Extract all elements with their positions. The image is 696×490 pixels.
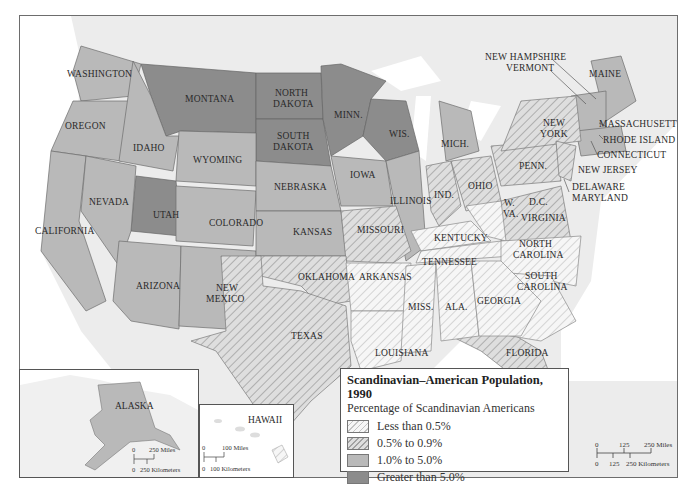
label-utah: UTAH	[153, 210, 179, 220]
legend-swatch-light-hatch	[347, 420, 369, 433]
label-new-york-2: YORK	[540, 129, 568, 139]
label-new-mexico: NEW	[216, 283, 238, 293]
main-scale-miles-mid: 125	[619, 441, 630, 449]
label-oklahoma: OKLAHOMA	[298, 272, 355, 282]
legend-label: 1.0% to 5.0%	[377, 453, 442, 468]
legend-label: Greater than 5.0%	[377, 470, 465, 485]
label-mississippi: MISS.	[408, 302, 434, 312]
label-tennessee: TENNESSEE	[422, 257, 477, 267]
label-west-virginia-2: VA.	[503, 209, 518, 219]
label-ohio: OHIO	[468, 181, 493, 191]
label-south-carolina: SOUTH	[525, 271, 558, 281]
main-scale-zero: 0	[595, 441, 599, 449]
label-oregon: OREGON	[65, 121, 106, 131]
label-texas: TEXAS	[291, 331, 323, 341]
legend-swatch-solid-dark	[347, 471, 369, 484]
main-scale-km-end: 250 Kilometers	[626, 460, 670, 468]
label-nevada: NEVADA	[89, 197, 129, 207]
label-michigan: MICH.	[441, 139, 469, 149]
label-georgia: GEORGIA	[477, 296, 521, 306]
label-south-carolina-2: CAROLINA	[517, 282, 568, 292]
label-nebraska: NEBRASKA	[274, 182, 327, 192]
label-massachusetts: MASSACHUSETTS	[599, 119, 678, 129]
label-north-carolina-2: CAROLINA	[513, 250, 564, 260]
legend-item-1-5: 1.0% to 5.0%	[347, 452, 562, 469]
legend-title: Scandinavian–American Population, 1990	[347, 373, 562, 401]
label-new-mexico-2: MEXICO	[206, 294, 245, 304]
hawaii-scale-zero: 0	[202, 444, 205, 451]
alaska-scale-zero: 0	[132, 446, 135, 453]
label-alabama: ALA.	[445, 302, 468, 312]
main-scale-miles-end: 250 Miles	[644, 441, 672, 449]
label-connecticut: CONNECTICUT	[597, 150, 666, 160]
label-new-jersey: NEW JERSEY	[578, 165, 638, 175]
label-wisconsin: WIS.	[389, 129, 410, 139]
label-arizona: ARIZONA	[136, 281, 180, 291]
label-north-dakota-2: DAKOTA	[273, 99, 314, 109]
label-louisiana: LOUISIANA	[375, 348, 429, 358]
label-virginia: VIRGINIA	[521, 213, 566, 223]
label-south-dakota-2: DAKOTA	[273, 142, 314, 152]
legend-item-gt-5: Greater than 5.0%	[347, 469, 562, 486]
alaska-inset: ALASKA 0 250 Miles 0 250 Kilometers	[19, 369, 199, 478]
legend-swatch-dark-hatch	[347, 437, 369, 450]
label-california: CALIFORNIA	[35, 226, 95, 236]
label-wyoming: WYOMING	[193, 155, 242, 165]
label-florida: FLORIDA	[506, 348, 549, 358]
label-illinois: ILLINOIS	[390, 196, 432, 206]
label-rhode-island: RHODE ISLAND	[603, 135, 675, 145]
label-indiana: IND.	[434, 190, 454, 200]
label-north-carolina: NORTH	[519, 239, 552, 249]
hawaii-scale-miles: 100 Miles	[222, 444, 249, 451]
main-scale-km-mid: 125	[609, 460, 620, 468]
label-west-virginia: W.	[504, 198, 515, 208]
main-scale-zero-km: 0	[595, 460, 599, 468]
label-missouri: MISSOURI	[357, 225, 404, 235]
label-pennsylvania: PENN.	[519, 161, 547, 171]
hawaii-scale-km: 100 Kilometers	[210, 465, 251, 472]
label-washington: WASHINGTON	[67, 69, 132, 79]
label-idaho: IDAHO	[133, 143, 165, 153]
label-iowa: IOWA	[350, 170, 376, 180]
label-dc: D.C.	[529, 197, 548, 207]
hawaii-inset: HAWAII 0 100 Miles 0 100 Kilometers	[199, 404, 294, 478]
alaska-scale-miles: 250 Miles	[149, 446, 176, 453]
legend-label: 0.5% to 0.9%	[377, 436, 442, 451]
label-maryland: MARYLAND	[572, 193, 628, 203]
label-montana: MONTANA	[185, 94, 234, 104]
map-legend: Scandinavian–American Population, 1990 P…	[340, 368, 569, 472]
label-south-dakota: SOUTH	[277, 131, 310, 141]
alaska-label: ALASKA	[115, 401, 154, 411]
label-maine: MAINE	[589, 69, 621, 79]
hawaii-label: HAWAII	[248, 415, 282, 425]
label-kansas: KANSAS	[293, 227, 332, 237]
hawaii-scale-zero-km: 0	[202, 465, 205, 472]
label-delaware: DELAWARE	[572, 182, 625, 192]
label-kentucky: KENTUCKY	[434, 233, 488, 243]
alaska-scale-km: 250 Kilometers	[140, 466, 181, 473]
label-north-dakota: NORTH	[275, 88, 308, 98]
legend-subtitle: Percentage of Scandinavian Americans	[347, 401, 562, 415]
legend-item-lt-05: Less than 0.5%	[347, 418, 562, 435]
legend-label: Less than 0.5%	[377, 419, 451, 434]
legend-swatch-solid-medium	[347, 454, 369, 467]
label-colorado: COLORADO	[209, 218, 263, 228]
label-new-york: NEW	[543, 118, 565, 128]
main-scale-bar	[597, 448, 651, 458]
label-minnesota: MINN.	[334, 110, 363, 120]
label-new-hampshire: NEW HAMPSHIRE	[485, 52, 566, 62]
label-arkansas: ARKANSAS	[359, 272, 412, 282]
alaska-scale-zero-km: 0	[132, 466, 135, 473]
legend-item-05-09: 0.5% to 0.9%	[347, 435, 562, 452]
label-vermont: VERMONT	[506, 63, 554, 73]
